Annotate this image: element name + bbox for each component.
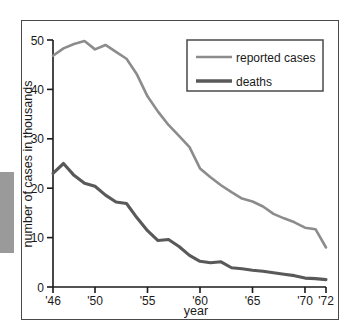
- legend: reported casesdeaths: [187, 40, 323, 91]
- x-tick-label: '70: [297, 294, 313, 308]
- figure-root: 01020304050 '46'50'55'60'65'70'72 number…: [0, 0, 351, 334]
- x-tick-label: '55: [140, 294, 156, 308]
- x-tick-label: '46: [45, 294, 61, 308]
- x-tick-label: '65: [245, 294, 261, 308]
- series-line-deaths: [53, 164, 326, 280]
- legend-label-reported-cases: reported cases: [236, 51, 315, 65]
- line-chart: 01020304050 '46'50'55'60'65'70'72 number…: [0, 0, 351, 334]
- legend-label-deaths: deaths: [236, 75, 272, 89]
- x-tick-label: '50: [87, 294, 103, 308]
- y-axis-title: number of cases in thousands: [21, 81, 35, 248]
- y-tick-label: 50: [31, 34, 45, 48]
- x-tick-label: '72: [318, 294, 334, 308]
- x-axis-title: year: [184, 304, 208, 318]
- y-tick-label: 0: [37, 281, 44, 295]
